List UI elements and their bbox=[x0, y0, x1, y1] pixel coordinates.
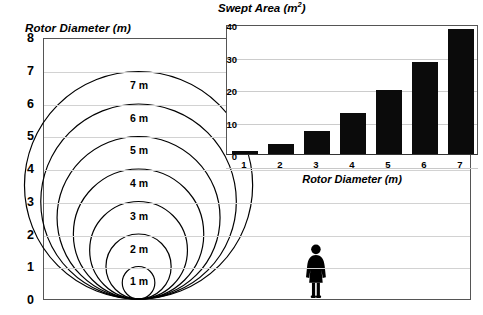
inset-y-tick-label: 10 bbox=[209, 118, 237, 129]
inset-title-prefix: Swept Area (m bbox=[218, 2, 297, 14]
inset-x-tick-label: 1 bbox=[241, 159, 246, 170]
inset-x-tick-label: 4 bbox=[349, 159, 354, 170]
main-gridline bbox=[44, 236, 470, 237]
main-y-tick-label: 2 bbox=[0, 228, 34, 242]
main-y-tick-label: 7 bbox=[0, 64, 34, 78]
bar-6 bbox=[412, 62, 437, 154]
main-chart-title: Rotor Diameter (m) bbox=[25, 22, 131, 34]
main-y-tick-label: 0 bbox=[0, 293, 34, 307]
figure-root: Rotor Diameter (m) 1 m2 m3 m4 m5 m6 m7 m… bbox=[0, 0, 483, 315]
inset-gridline bbox=[227, 91, 477, 92]
inset-x-axis-label: Rotor Diameter (m) bbox=[226, 173, 478, 185]
bar-5 bbox=[376, 90, 401, 154]
rotor-circle-label-3m: 3 m bbox=[130, 210, 148, 222]
bar-7 bbox=[448, 29, 473, 154]
rotor-circle-label-5m: 5 m bbox=[130, 144, 148, 156]
inset-y-tick-label: 20 bbox=[209, 86, 237, 97]
swept-area-chart: Swept Area (m2) 010203040 Rotor Diameter… bbox=[210, 0, 483, 190]
rotor-circle-label-1m: 1 m bbox=[130, 275, 148, 287]
rotor-circle-label-4m: 4 m bbox=[130, 177, 148, 189]
inset-y-tick-label: 40 bbox=[209, 21, 237, 32]
inset-x-tick-label: 2 bbox=[277, 159, 282, 170]
inset-plot-area: 010203040 bbox=[226, 25, 478, 155]
inset-title-suffix: ) bbox=[302, 2, 306, 14]
inset-x-tick-label: 3 bbox=[313, 159, 318, 170]
main-y-tick-label: 5 bbox=[0, 129, 34, 143]
inset-y-tick-label: 30 bbox=[209, 53, 237, 64]
main-y-tick-label: 4 bbox=[0, 162, 34, 176]
main-y-tick-label: 1 bbox=[0, 260, 34, 274]
inset-gridline bbox=[227, 59, 477, 60]
main-y-tick-label: 8 bbox=[0, 31, 34, 45]
bar-4 bbox=[340, 113, 365, 154]
main-y-tick-label: 3 bbox=[0, 195, 34, 209]
main-gridline bbox=[44, 203, 470, 204]
rotor-circle-label-7m: 7 m bbox=[130, 79, 148, 91]
inset-x-tick-label: 7 bbox=[457, 159, 462, 170]
bar-3 bbox=[304, 131, 329, 154]
rotor-circle-label-2m: 2 m bbox=[130, 243, 148, 255]
inset-x-tick-label: 6 bbox=[421, 159, 426, 170]
bar-2 bbox=[268, 144, 293, 154]
main-y-tick-label: 6 bbox=[0, 97, 34, 111]
rotor-circle-label-6m: 6 m bbox=[130, 112, 148, 124]
inset-chart-title: Swept Area (m2) bbox=[218, 2, 305, 14]
bar-1 bbox=[232, 151, 257, 154]
main-gridline bbox=[44, 268, 470, 269]
female-silhouette-icon bbox=[304, 243, 328, 299]
inset-x-tick-label: 5 bbox=[385, 159, 390, 170]
